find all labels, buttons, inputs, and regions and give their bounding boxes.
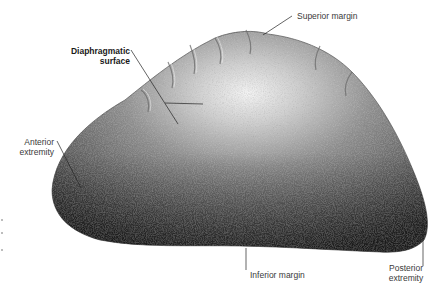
label-anterior-extremity: Anterior extremity xyxy=(6,137,54,157)
label-anterior-line2: extremity xyxy=(6,147,54,157)
label-posterior-line1: Posterior xyxy=(380,263,432,273)
label-diaphragmatic-line2: surface xyxy=(66,56,130,66)
label-anterior-line1: Anterior xyxy=(6,137,54,147)
label-diaphragmatic-surface: Diaphragmatic surface xyxy=(66,46,130,66)
edge-mark xyxy=(1,232,3,234)
spleen-illustration xyxy=(0,0,438,292)
anatomy-figure: Superior margin Diaphragmatic surface An… xyxy=(0,0,438,292)
label-posterior-extremity: Posterior extremity xyxy=(380,263,432,283)
label-inferior-margin: Inferior margin xyxy=(250,270,305,280)
edge-mark xyxy=(1,249,3,251)
leader-superior-margin xyxy=(263,16,292,35)
label-diaphragmatic-line1: Diaphragmatic xyxy=(66,46,130,56)
label-posterior-line2: extremity xyxy=(380,273,432,283)
edge-mark xyxy=(1,219,3,221)
label-superior-margin: Superior margin xyxy=(297,11,357,21)
